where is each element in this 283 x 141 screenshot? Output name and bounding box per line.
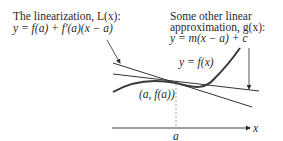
linearization-equation: y = f(a) + f′(a)(x − a): [13, 22, 113, 34]
a-tick-label: a: [173, 130, 179, 141]
x-axis-label: x: [253, 122, 258, 134]
other-approx-equation: y = m(x − a) + c: [170, 32, 248, 44]
linearization-title: The linearization, L(x):: [13, 10, 121, 22]
point-label: (a, f(a)): [139, 88, 175, 100]
curve-label: y = f(x): [179, 56, 214, 68]
function-curve: [113, 48, 240, 92]
linearization-pointer-arrow: [107, 40, 120, 63]
